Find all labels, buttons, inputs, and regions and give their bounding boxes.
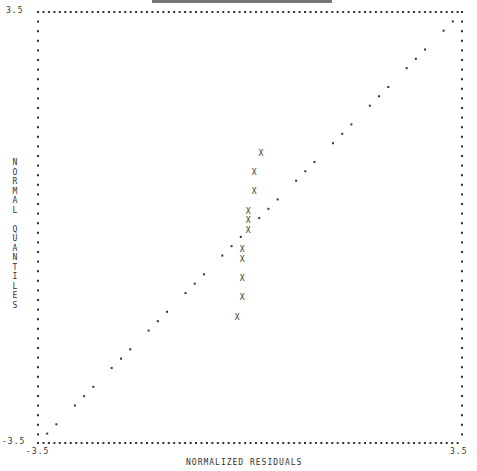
frame-dot-bottom bbox=[299, 442, 301, 444]
frame-dot-bottom bbox=[310, 442, 312, 444]
frame-dot-bottom bbox=[184, 442, 186, 444]
frame-dot-bottom bbox=[364, 442, 366, 444]
frame-dot-right bbox=[461, 376, 463, 378]
frame-dot-top bbox=[162, 11, 164, 13]
frame-dot-right bbox=[461, 347, 463, 349]
reference-line-dot bbox=[37, 442, 39, 444]
frame-dot-top bbox=[304, 11, 306, 13]
frame-dot-left bbox=[37, 251, 39, 253]
frame-dot-left bbox=[37, 433, 39, 435]
frame-dot-right bbox=[461, 174, 463, 176]
reference-line-dot bbox=[46, 433, 48, 435]
reference-line-dot bbox=[369, 105, 371, 107]
frame-dot-left bbox=[37, 222, 39, 224]
frame-dot-bottom bbox=[277, 442, 279, 444]
frame-dot-bottom bbox=[217, 442, 219, 444]
frame-dot-bottom bbox=[250, 442, 252, 444]
reference-line-dot bbox=[203, 273, 205, 275]
frame-dot-bottom bbox=[81, 442, 83, 444]
frame-dot-top bbox=[157, 11, 159, 13]
frame-dot-top bbox=[299, 11, 301, 13]
frame-dot-right bbox=[461, 59, 463, 61]
frame-dot-left bbox=[37, 347, 39, 349]
frame-dot-top bbox=[70, 11, 72, 13]
frame-dot-left bbox=[37, 328, 39, 330]
frame-dot-bottom bbox=[440, 442, 442, 444]
frame-dot-right bbox=[461, 49, 463, 51]
frame-dot-top bbox=[353, 11, 355, 13]
frame-dot-top bbox=[260, 11, 262, 13]
frame-dot-bottom bbox=[424, 442, 426, 444]
frame-dot-top bbox=[457, 11, 459, 13]
frame-dot-bottom bbox=[260, 442, 262, 444]
frame-dot-top bbox=[315, 11, 317, 13]
frame-dot-left bbox=[37, 241, 39, 243]
frame-dot-left bbox=[37, 357, 39, 359]
frame-dot-top bbox=[97, 11, 99, 13]
frame-dot-left bbox=[37, 145, 39, 147]
frame-dot-left bbox=[37, 78, 39, 80]
frame-dot-right bbox=[461, 30, 463, 32]
frame-dot-right bbox=[461, 40, 463, 42]
frame-dot-bottom bbox=[402, 442, 404, 444]
reference-line-dot bbox=[74, 405, 76, 407]
frame-dot-top bbox=[250, 11, 252, 13]
frame-dot-top bbox=[64, 11, 66, 13]
frame-dot-left bbox=[37, 136, 39, 138]
frame-dot-right bbox=[461, 289, 463, 291]
reference-line-dot bbox=[83, 395, 85, 397]
frame-dot-bottom bbox=[53, 442, 55, 444]
frame-dot-bottom bbox=[86, 442, 88, 444]
residual-x-marker: X bbox=[235, 313, 240, 322]
reference-line-dot bbox=[231, 245, 233, 247]
frame-dot-top bbox=[244, 11, 246, 13]
frame-dot-bottom bbox=[342, 442, 344, 444]
frame-dot-top bbox=[402, 11, 404, 13]
frame-dot-top bbox=[201, 11, 203, 13]
frame-dot-top bbox=[124, 11, 126, 13]
frame-dot-left bbox=[37, 309, 39, 311]
reference-line-dot bbox=[120, 358, 122, 360]
frame-dot-top bbox=[288, 11, 290, 13]
reference-line-dot bbox=[277, 198, 279, 200]
frame-dot-top bbox=[429, 11, 431, 13]
frame-dot-right bbox=[461, 184, 463, 186]
frame-dot-bottom bbox=[108, 442, 110, 444]
frame-dot-left bbox=[37, 21, 39, 23]
frame-dot-right bbox=[461, 318, 463, 320]
frame-dot-left bbox=[37, 213, 39, 215]
frame-dot-bottom bbox=[233, 442, 235, 444]
frame-dot-bottom bbox=[271, 442, 273, 444]
frame-dot-bottom bbox=[451, 442, 453, 444]
residual-x-marker: X bbox=[240, 245, 245, 254]
frame-dot-bottom bbox=[331, 442, 333, 444]
frame-dot-top bbox=[141, 11, 143, 13]
reference-line-dot bbox=[415, 58, 417, 60]
frame-dot-top bbox=[424, 11, 426, 13]
frame-dot-top bbox=[419, 11, 421, 13]
frame-dot-bottom bbox=[244, 442, 246, 444]
residual-x-marker: X bbox=[252, 168, 257, 177]
frame-dot-bottom bbox=[359, 442, 361, 444]
residual-x-marker: X bbox=[246, 226, 251, 235]
frame-dot-top bbox=[130, 11, 132, 13]
frame-dot-bottom bbox=[391, 442, 393, 444]
frame-dot-top bbox=[228, 11, 230, 13]
frame-dot-right bbox=[461, 136, 463, 138]
frame-dot-bottom bbox=[102, 442, 104, 444]
frame-dot-left bbox=[37, 318, 39, 320]
frame-dot-top bbox=[86, 11, 88, 13]
residual-x-marker: X bbox=[240, 255, 245, 264]
frame-dot-top bbox=[43, 11, 45, 13]
reference-line-dot bbox=[461, 11, 463, 13]
frame-dot-left bbox=[37, 30, 39, 32]
frame-dot-left bbox=[37, 40, 39, 42]
y-axis-max-label: 3.5 bbox=[6, 6, 23, 15]
frame-dot-left bbox=[37, 193, 39, 195]
frame-dot-left bbox=[37, 232, 39, 234]
frame-dot-top bbox=[375, 11, 377, 13]
frame-dot-right bbox=[461, 88, 463, 90]
frame-dot-left bbox=[37, 126, 39, 128]
frame-dot-bottom bbox=[179, 442, 181, 444]
frame-dot-top bbox=[359, 11, 361, 13]
